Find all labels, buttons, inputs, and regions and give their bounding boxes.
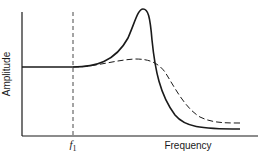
y-axis-label: Amplitude xyxy=(1,52,12,96)
f1-marker-label: f1 xyxy=(69,138,76,153)
resonant-response-curve xyxy=(73,9,240,129)
f1-subscript: 1 xyxy=(73,144,77,153)
amplitude-frequency-diagram xyxy=(0,0,263,157)
x-axis-label: Frequency xyxy=(164,140,211,151)
